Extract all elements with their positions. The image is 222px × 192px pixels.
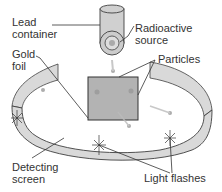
label-detecting-screen: Detecting screen (12, 161, 58, 185)
lead-container (100, 5, 124, 55)
gold-foil (88, 77, 138, 120)
alpha-scattering-diagram: Lead container Radioactive source Gold f… (0, 0, 222, 192)
radioactive-source (109, 40, 115, 46)
label-particles: Particles (158, 53, 200, 65)
label-gold-foil: Gold foil (12, 48, 35, 72)
label-light-flashes: Light flashes (144, 172, 206, 184)
label-lead-container: Lead container (12, 16, 57, 40)
label-radioactive-source: Radioactive source (135, 22, 192, 46)
